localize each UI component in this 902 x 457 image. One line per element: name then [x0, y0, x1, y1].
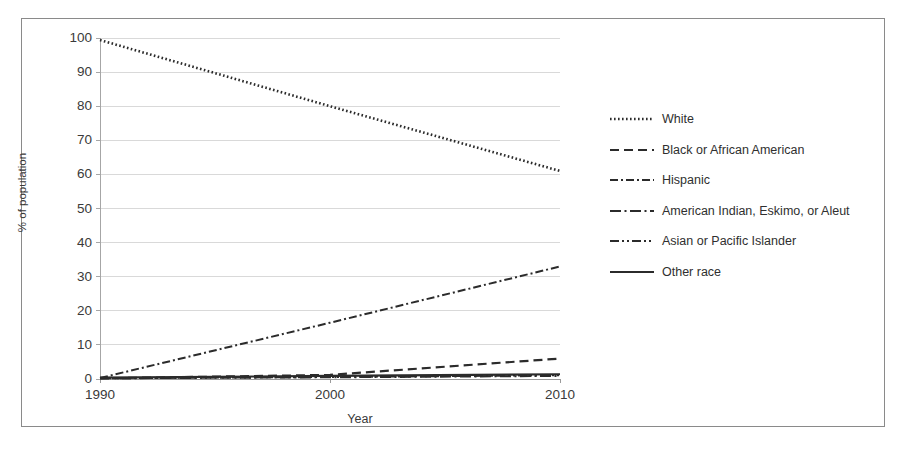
legend-item[interactable]: White: [610, 104, 885, 135]
y-tick-label: 70: [52, 133, 92, 146]
legend-item[interactable]: Hispanic: [610, 165, 885, 196]
legend-item-label: Asian or Pacific Islander: [662, 234, 796, 248]
legend-item-label: Hispanic: [662, 173, 710, 187]
legend-item-label: Black or African American: [662, 143, 804, 157]
legend-item[interactable]: American Indian, Eskimo, or Aleut: [610, 196, 885, 227]
legend-line-sample-icon: [610, 144, 656, 156]
x-tick-label: 1990: [60, 388, 140, 402]
y-tick-label: 80: [52, 99, 92, 112]
y-tick-label: 90: [52, 65, 92, 78]
y-tick-label: 10: [52, 338, 92, 351]
y-tick-label: 100: [52, 31, 92, 44]
x-tick-label: 2010: [520, 388, 600, 402]
y-tick-label: 20: [52, 304, 92, 317]
legend-item[interactable]: Black or African American: [610, 135, 885, 166]
series-line-0: [100, 40, 560, 171]
legend-item-label: Other race: [662, 265, 721, 279]
legend-item[interactable]: Asian or Pacific Islander: [610, 226, 885, 257]
chart-legend: WhiteBlack or African AmericanHispanicAm…: [610, 104, 885, 287]
legend-item-label: American Indian, Eskimo, or Aleut: [662, 204, 850, 218]
legend-line-sample-icon: [610, 266, 656, 278]
legend-item-label: White: [662, 112, 694, 126]
legend-line-sample-icon: [610, 235, 656, 247]
legend-item[interactable]: Other race: [610, 257, 885, 288]
legend-line-sample-icon: [610, 174, 656, 186]
y-axis-title: % of population: [16, 123, 29, 263]
x-axis-title: Year: [290, 412, 430, 426]
y-tick-label: 60: [52, 167, 92, 180]
legend-line-sample-icon: [610, 205, 656, 217]
x-tick-label: 2000: [290, 388, 370, 402]
y-tick-label: 50: [52, 202, 92, 215]
series-line-2: [100, 266, 560, 378]
y-tick-label: 40: [52, 236, 92, 249]
y-tick-label: 30: [52, 270, 92, 283]
legend-line-sample-icon: [610, 113, 656, 125]
x-axis-ticks: 199020002010: [0, 388, 902, 410]
y-tick-label: 0: [52, 372, 92, 385]
